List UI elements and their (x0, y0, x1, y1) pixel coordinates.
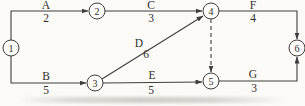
edge-E-activity-label: E (148, 69, 155, 81)
node-6-label: 6 (295, 43, 300, 54)
edge-A-arrow (11, 11, 88, 40)
network-svg: 123456 A2B5C3D6E5F4G3 (0, 0, 305, 106)
edge-G-arrow (219, 57, 297, 81)
edge-E-arrow (103, 82, 202, 83)
labels-layer: A2B5C3D6E5F4G3 (42, 0, 257, 96)
edge-A-duration-label: 2 (43, 12, 49, 24)
node-1-label: 1 (9, 43, 14, 54)
edge-G-duration-label: 3 (251, 82, 257, 94)
node-4-label: 4 (209, 6, 214, 17)
node-2-label: 2 (95, 6, 100, 17)
edge-D-duration-label: 6 (143, 48, 149, 60)
edge-G-activity-label: G (249, 68, 257, 80)
edge-B-activity-label: B (42, 70, 50, 82)
node-3-label: 3 (93, 78, 98, 89)
edge-F-activity-label: F (250, 0, 256, 11)
edge-A-activity-label: A (42, 0, 51, 11)
node-5-label: 5 (209, 76, 214, 87)
edge-F-duration-label: 4 (250, 12, 256, 24)
edge-B-duration-label: 5 (43, 84, 49, 96)
network-diagram: 123456 A2B5C3D6E5F4G3 (0, 0, 305, 106)
edge-E-duration-label: 5 (148, 84, 154, 96)
edge-C-duration-label: 3 (148, 12, 154, 24)
edge-C-activity-label: C (147, 0, 155, 11)
edge-F-arrow (219, 11, 297, 39)
edge-D-activity-label: D (135, 37, 143, 49)
